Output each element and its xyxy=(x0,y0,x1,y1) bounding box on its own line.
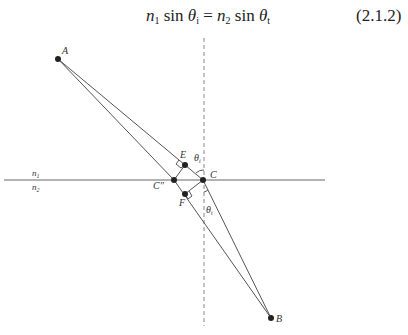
point-b xyxy=(268,315,274,321)
label-e: E xyxy=(179,149,186,160)
ray-a-to-c2 xyxy=(58,59,174,180)
point-a xyxy=(55,56,61,62)
point-c2 xyxy=(171,177,177,183)
label-theta-t: θt xyxy=(206,204,213,216)
ray-a-to-c xyxy=(58,59,203,180)
refraction-diagram: A B C C'' E F θi θt n1 n2 xyxy=(0,0,408,335)
label-c: C xyxy=(210,169,217,180)
label-b: B xyxy=(276,313,282,324)
ray-c2-to-b xyxy=(174,180,271,318)
label-c2: C'' xyxy=(153,180,165,191)
angle-theta-i-arc xyxy=(196,170,204,173)
segment-c-f xyxy=(185,180,203,194)
point-e xyxy=(182,162,188,168)
label-a: A xyxy=(61,45,69,56)
label-f: F xyxy=(178,197,186,208)
ray-c-to-b xyxy=(203,180,271,318)
label-n2: n2 xyxy=(32,182,40,193)
angle-theta-t-arc xyxy=(204,190,208,192)
label-n1: n1 xyxy=(32,168,40,179)
label-theta-i: θi xyxy=(194,152,201,164)
point-c xyxy=(200,177,206,183)
